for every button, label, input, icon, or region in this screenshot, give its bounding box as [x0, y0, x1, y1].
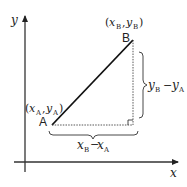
segment-ab [52, 40, 133, 125]
svg-text:y: y [171, 78, 179, 92]
svg-text:x: x [77, 138, 84, 152]
vertical-difference-label: y B − y A [147, 78, 185, 94]
svg-text:A: A [52, 109, 59, 117]
svg-text:): ) [139, 16, 143, 29]
svg-text:−: − [163, 79, 172, 92]
vertical-brace [139, 52, 147, 118]
svg-text:A: A [178, 86, 185, 94]
point-a-label: A [39, 115, 47, 129]
point-b-label: B [122, 31, 130, 45]
y-axis-label: y [10, 13, 18, 27]
svg-text:y: y [147, 78, 155, 92]
right-angle-marker [128, 120, 133, 125]
svg-text:): ) [59, 102, 63, 115]
svg-text:x: x [109, 16, 116, 29]
svg-text:,: , [42, 102, 46, 115]
svg-text:,: , [122, 16, 126, 29]
svg-text:y: y [125, 16, 133, 29]
svg-text:B: B [84, 146, 89, 154]
svg-text:x: x [97, 138, 104, 152]
point-a-coordinates: ( x A , y A ) [25, 102, 63, 117]
svg-text:A: A [103, 146, 110, 154]
coordinate-diagram: y x A B ( x A , y A ) ( x B , y B ) y B … [0, 0, 187, 187]
svg-text:x: x [29, 102, 36, 115]
svg-text:B: B [133, 23, 138, 31]
svg-text:A: A [35, 109, 42, 117]
svg-text:y: y [45, 102, 53, 115]
svg-text:B: B [116, 23, 121, 31]
point-b-coordinates: ( x B , y B ) [105, 16, 143, 31]
x-axis-label: x [170, 166, 177, 180]
horizontal-difference-label: x B − x A [77, 138, 110, 154]
svg-text:B: B [155, 86, 160, 94]
